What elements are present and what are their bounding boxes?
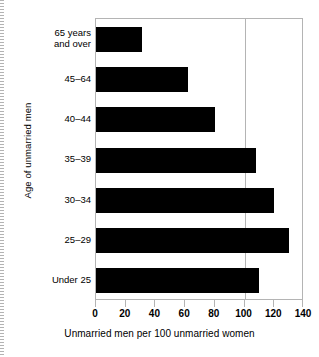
bar bbox=[96, 67, 188, 92]
bar bbox=[96, 188, 274, 213]
category-axis-labels: 65 years and over45–6440–4435–3930–3425–… bbox=[20, 18, 91, 300]
bar-chart-figure: Age of unmarried men 65 years and over45… bbox=[0, 0, 319, 357]
tickmark-x-120 bbox=[273, 300, 274, 307]
category-label: Under 25 bbox=[20, 274, 91, 286]
x-axis-tick-labels: 020406080100120140 bbox=[95, 308, 303, 322]
tickmark-x-20 bbox=[125, 300, 126, 307]
x-tick-label: 140 bbox=[283, 308, 319, 319]
x-axis-title: Unmarried men per 100 unmarried women bbox=[0, 328, 319, 339]
bar bbox=[96, 107, 215, 132]
tickmark-x-40 bbox=[154, 300, 155, 307]
category-label: 35–39 bbox=[20, 153, 91, 165]
bar bbox=[96, 228, 289, 253]
plot-area bbox=[95, 18, 303, 300]
bar bbox=[96, 268, 259, 293]
category-label: 30–34 bbox=[20, 194, 91, 206]
tickmark-x-0 bbox=[95, 300, 96, 307]
tickmark-x-140 bbox=[302, 300, 303, 307]
tickmark-x-100 bbox=[244, 300, 245, 307]
category-label: 65 years and over bbox=[20, 27, 91, 50]
category-label: 40–44 bbox=[20, 113, 91, 125]
bar bbox=[96, 148, 256, 173]
tickmark-x-60 bbox=[184, 300, 185, 307]
tickmark-x-80 bbox=[214, 300, 215, 307]
category-label: 25–29 bbox=[20, 234, 91, 246]
x-axis-tickmarks bbox=[95, 300, 303, 307]
plot-inner bbox=[96, 19, 302, 299]
category-label: 45–64 bbox=[20, 73, 91, 85]
bar bbox=[96, 27, 142, 52]
